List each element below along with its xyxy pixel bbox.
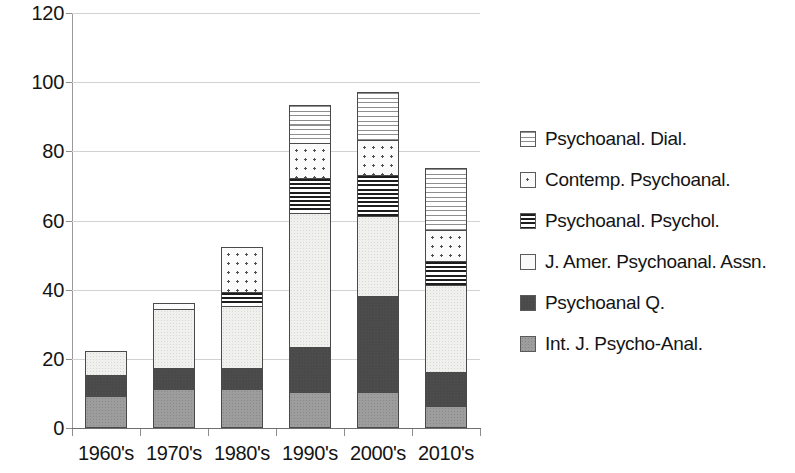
bar-1960s (85, 352, 127, 428)
bar-segment (357, 175, 399, 218)
x-axis-tick-label: 2000's (344, 441, 412, 465)
y-axis-tick-label: 40 (4, 280, 64, 300)
x-axis-tick-label: 1990's (276, 441, 344, 465)
y-axis-tick (66, 13, 72, 14)
legend-item: Int. J. Psycho-Anal. (520, 323, 790, 364)
y-axis-tick (66, 221, 72, 222)
gridline (72, 221, 480, 222)
chart-legend: Psychoanal. Dial.Contemp. Psychoanal.Psy… (520, 118, 790, 364)
bar-segment (153, 368, 195, 390)
legend-label: Int. J. Psycho-Anal. (545, 333, 703, 355)
bar-segment (425, 230, 467, 262)
bar-1990s (289, 106, 331, 428)
x-axis-tick (344, 429, 345, 436)
x-axis-tick-label: 1960's (72, 441, 140, 465)
bar-segment (153, 303, 195, 311)
legend-item: Contemp. Psychoanal. (520, 159, 790, 200)
bar-segment (425, 406, 467, 428)
bar-segment (289, 178, 331, 214)
y-axis-tick-label: 0 (4, 418, 64, 438)
bar-2000s (357, 93, 399, 428)
gridline (72, 290, 480, 291)
y-axis-tick (66, 151, 72, 152)
x-axis-tick-label: 1980's (208, 441, 276, 465)
gridline (72, 151, 480, 152)
bar-segment (85, 351, 127, 376)
y-axis-tick-label: 80 (4, 141, 64, 161)
y-axis-tick (66, 290, 72, 291)
x-axis-tick (276, 429, 277, 436)
plot-area (72, 13, 480, 428)
stacked-bar-chart: 020406080100120 1960's1970's1980's1990's… (0, 0, 795, 473)
x-axis-tick-label: 1970's (140, 441, 208, 465)
legend-swatch-icon (520, 213, 536, 229)
gridline (72, 13, 480, 14)
bar-segment (221, 306, 263, 369)
y-axis-tick-label: 20 (4, 349, 64, 369)
x-axis-tick (208, 429, 209, 436)
bar-segment (289, 347, 331, 393)
bar-2010s (425, 169, 467, 428)
y-axis-tick-label: 100 (4, 72, 64, 92)
x-axis-tick (480, 429, 481, 436)
bar-segment (357, 392, 399, 428)
bar-segment (85, 375, 127, 397)
y-axis-tick-label: 60 (4, 211, 64, 231)
legend-label: Psychoanal. Psychol. (545, 210, 720, 232)
bar-1980s (221, 248, 263, 428)
bar-segment (289, 143, 331, 179)
bar-segment (425, 285, 467, 372)
legend-label: Psychoanal Q. (545, 292, 665, 314)
bar-segment (85, 396, 127, 428)
bar-segment (425, 372, 467, 408)
gridline (72, 359, 480, 360)
y-axis-tick-label: 120 (4, 3, 64, 23)
y-axis-tick (66, 359, 72, 360)
bar-segment (425, 168, 467, 231)
x-axis-tick-label: 2010's (412, 441, 480, 465)
bar-segment (357, 92, 399, 141)
y-axis-tick (66, 82, 72, 83)
bar-segment (221, 292, 263, 307)
legend-label: Psychoanal. Dial. (545, 128, 687, 150)
bar-segment (221, 389, 263, 428)
bar-segment (221, 368, 263, 390)
bar-segment (153, 389, 195, 428)
bar-segment (153, 309, 195, 369)
legend-swatch-icon (520, 254, 536, 270)
legend-label: J. Amer. Psychoanal. Assn. (545, 251, 766, 273)
bar-segment (221, 247, 263, 293)
bar-segment (425, 261, 467, 286)
bar-1970s (153, 304, 195, 429)
legend-item: Psychoanal. Dial. (520, 118, 790, 159)
x-axis-tick (412, 429, 413, 436)
bar-segment (289, 105, 331, 144)
x-axis-tick (72, 429, 73, 436)
legend-swatch-icon (520, 336, 536, 352)
legend-swatch-icon (520, 295, 536, 311)
legend-swatch-icon (520, 131, 536, 147)
legend-item: Psychoanal. Psychol. (520, 200, 790, 241)
legend-item: J. Amer. Psychoanal. Assn. (520, 241, 790, 282)
legend-swatch-icon (520, 172, 536, 188)
bar-segment (357, 296, 399, 394)
legend-item: Psychoanal Q. (520, 282, 790, 323)
bar-segment (289, 392, 331, 428)
bar-segment (357, 140, 399, 176)
x-axis-tick (140, 429, 141, 436)
bar-segment (357, 216, 399, 297)
gridline (72, 82, 480, 83)
legend-label: Contemp. Psychoanal. (545, 169, 730, 191)
bar-segment (289, 213, 331, 349)
